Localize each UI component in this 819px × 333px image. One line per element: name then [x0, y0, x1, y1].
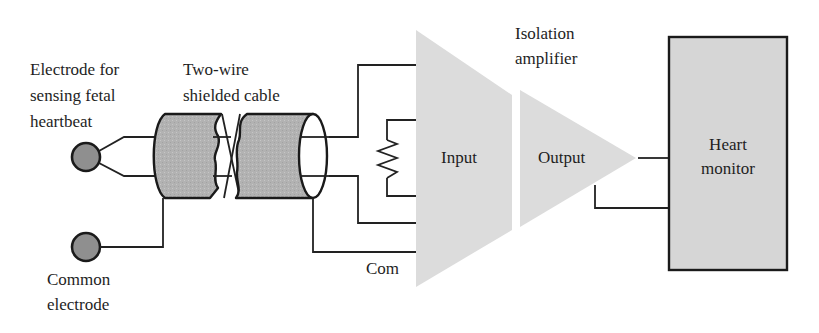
- shielded-cable: [154, 114, 329, 198]
- common-electrode-label: Common electrode: [47, 270, 111, 314]
- heart-monitor-label-line1: Heart: [709, 135, 747, 154]
- cable-left-segment: [154, 114, 221, 198]
- cable-end: [299, 114, 327, 198]
- svg-text:sensing fetal: sensing fetal: [30, 86, 116, 105]
- isolation-amplifier-label: Isolation amplifier: [515, 24, 578, 68]
- sensing-electrode: [72, 143, 100, 171]
- svg-text:amplifier: amplifier: [515, 49, 578, 68]
- resistor: [378, 140, 397, 178]
- svg-text:Electrode for: Electrode for: [30, 60, 120, 79]
- cable-label: Two-wire shielded cable: [183, 60, 280, 105]
- svg-text:Common: Common: [47, 270, 111, 289]
- svg-text:electrode: electrode: [47, 295, 109, 314]
- heart-monitor-label-line2: monitor: [701, 159, 755, 178]
- input-wiring: [313, 65, 417, 252]
- svg-text:Two-wire: Two-wire: [183, 60, 249, 79]
- common-electrode: [72, 233, 100, 261]
- output-label: Output: [538, 148, 586, 167]
- com-label: Com: [366, 259, 399, 278]
- isolation-amplifier-diagram: Electrode for sensing fetal heartbeat Tw…: [0, 0, 819, 333]
- com-wire: [313, 198, 417, 252]
- svg-text:heartbeat: heartbeat: [30, 112, 93, 131]
- svg-text:Isolation: Isolation: [515, 24, 575, 43]
- svg-text:shielded cable: shielded cable: [183, 86, 280, 105]
- input-label: Input: [441, 148, 477, 167]
- electrode-sensing-label: Electrode for sensing fetal heartbeat: [30, 60, 120, 131]
